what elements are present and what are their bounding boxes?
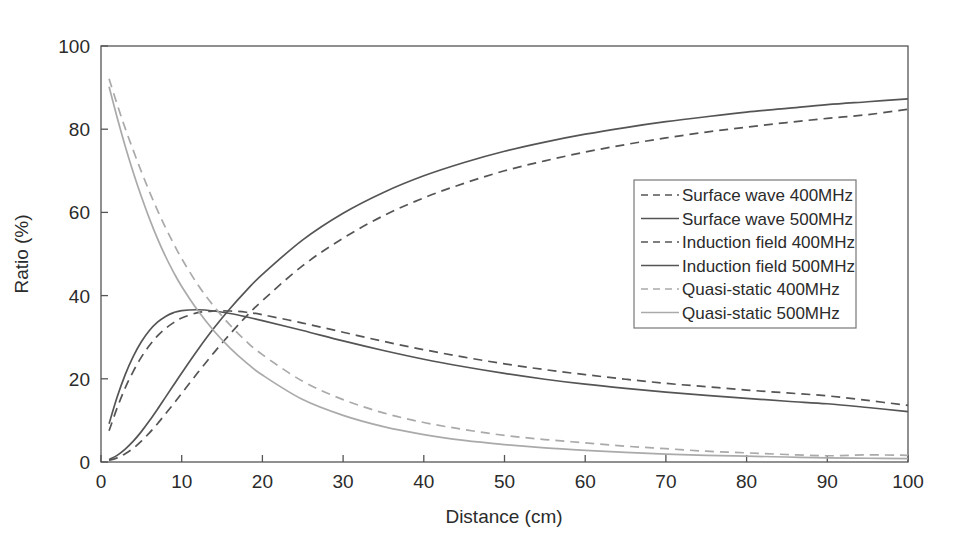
x-tick-label: 40 bbox=[413, 471, 434, 492]
chart-legend[interactable]: Surface wave 400MHzSurface wave 500MHzIn… bbox=[634, 180, 856, 328]
x-tick-label: 60 bbox=[575, 471, 596, 492]
y-tick-label: 100 bbox=[58, 36, 90, 57]
y-tick-label: 60 bbox=[69, 202, 90, 223]
x-tick-label: 80 bbox=[736, 471, 757, 492]
x-tick-label: 70 bbox=[655, 471, 676, 492]
legend-label-2: Induction field 400MHz bbox=[682, 233, 855, 252]
y-tick-label: 80 bbox=[69, 119, 90, 140]
legend-label-0: Surface wave 400MHz bbox=[682, 186, 853, 205]
x-tick-label: 90 bbox=[817, 471, 838, 492]
chart-canvas: 0102030405060708090100020406080100 Dista… bbox=[0, 0, 958, 545]
x-axis-title: Distance (cm) bbox=[445, 506, 562, 527]
legend-label-1: Surface wave 500MHz bbox=[682, 210, 853, 229]
x-tick-label: 10 bbox=[171, 471, 192, 492]
x-tick-label: 100 bbox=[892, 471, 924, 492]
x-tick-label: 50 bbox=[494, 471, 515, 492]
x-tick-label: 20 bbox=[252, 471, 273, 492]
legend-label-3: Induction field 500MHz bbox=[682, 257, 855, 276]
x-tick-label: 30 bbox=[333, 471, 354, 492]
legend-label-4: Quasi-static 400MHz bbox=[682, 280, 840, 299]
series-line-2 bbox=[109, 311, 908, 431]
y-tick-label: 20 bbox=[69, 369, 90, 390]
y-tick-label: 0 bbox=[79, 452, 90, 473]
legend-label-5: Quasi-static 500MHz bbox=[682, 304, 840, 323]
x-tick-label: 0 bbox=[96, 471, 107, 492]
y-tick-label: 40 bbox=[69, 286, 90, 307]
chart-figure: 0102030405060708090100020406080100 Dista… bbox=[0, 0, 958, 545]
y-axis-title: Ratio (%) bbox=[11, 214, 32, 293]
